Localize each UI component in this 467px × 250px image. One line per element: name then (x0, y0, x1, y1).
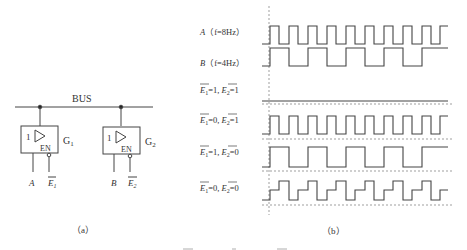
g1-enable-input: E1 (47, 178, 57, 189)
g2-enable-input: E2 (127, 178, 137, 189)
enable-bubble-icon (47, 153, 51, 157)
caption-a: （a） (72, 225, 94, 235)
g2-input-b: B (111, 178, 117, 188)
circuit-diagram (15, 105, 153, 177)
enable-bubble-icon (128, 154, 132, 158)
row-label-b: B（f=4Hz） (200, 58, 245, 68)
waveform-b (262, 48, 448, 66)
row-label-e1-1-e2-0: E1=1, E2=0 (199, 147, 239, 158)
g1-input-a: A (28, 178, 35, 188)
g1-name: G1 (63, 135, 74, 148)
figure-canvas: BUS 1 EN G1 A E1 1 EN G2 B E2 （a） A（f=8H… (0, 0, 467, 250)
waveform-conflict (262, 181, 448, 200)
row-label-e1-0-e2-1: E1=0, E2=1 (199, 115, 239, 126)
g2-symbol: 1 (107, 133, 112, 143)
g1-enable-label: EN (40, 144, 51, 153)
g1-symbol: 1 (26, 132, 31, 142)
waveform-a (262, 26, 448, 44)
bus-label: BUS (72, 93, 91, 104)
g2-enable-label: EN (121, 145, 132, 154)
waveform-labels: A（f=8Hz） B（f=4Hz） E1=1, E2=1 E1=0, E2=1 … (199, 27, 245, 194)
waveform-output-b (262, 147, 448, 167)
waveform-output-a (262, 116, 448, 134)
g2-name: G2 (145, 136, 156, 149)
row-label-e1-1-e2-1: E1=1, E2=1 (199, 85, 239, 96)
row-label-e1-0-e2-0: E1=0, E2=0 (199, 183, 239, 194)
caption-b: （b） (322, 226, 345, 236)
waveforms (262, 6, 454, 215)
row-label-a: A（f=8Hz） (199, 27, 245, 37)
overbars (200, 84, 237, 182)
